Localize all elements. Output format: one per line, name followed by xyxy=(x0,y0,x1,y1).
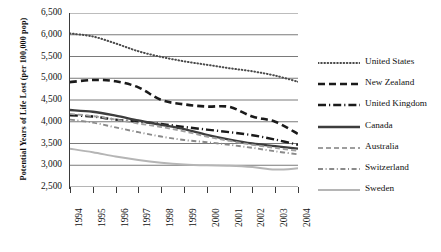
x-tick-mark xyxy=(275,187,276,193)
legend-swatch-icon xyxy=(318,97,360,109)
y-axis-tick-labels: 2,5003,0003,5004,0004,5005,0005,5006,000… xyxy=(22,0,62,252)
chart-legend: United StatesNew ZealandUnited KingdomCa… xyxy=(318,54,441,204)
legend-item-canada[interactable]: Canada xyxy=(318,118,393,132)
y-tick-label: 2,500 xyxy=(26,182,62,191)
legend-item-new-zealand[interactable]: New Zealand xyxy=(318,75,414,89)
legend-item-sweden[interactable]: Sweden xyxy=(318,181,394,195)
x-tick-mark xyxy=(252,187,253,193)
y-tick-label: 5,500 xyxy=(26,52,62,61)
legend-label: Switzerland xyxy=(365,162,409,172)
x-tick-mark xyxy=(184,187,185,193)
legend-label: United States xyxy=(365,56,414,66)
x-tick-label: 2004 xyxy=(302,193,312,227)
legend-item-switzerland[interactable]: Switzerland xyxy=(318,160,409,174)
legend-swatch-icon xyxy=(318,76,360,88)
plot-area xyxy=(70,13,298,187)
x-tick-mark xyxy=(230,187,231,193)
x-tick-mark xyxy=(116,187,117,193)
x-tick-label: 2002 xyxy=(256,193,266,227)
x-tick-mark xyxy=(70,187,71,193)
legend-label: United Kingdom xyxy=(365,98,427,108)
legend-label: New Zealand xyxy=(365,77,414,87)
x-axis-tick-labels: 1994199519961997199819992000200120022003… xyxy=(70,187,298,251)
legend-label: Australia xyxy=(365,141,399,151)
legend-swatch-icon xyxy=(318,161,360,173)
y-tick-label: 3,000 xyxy=(26,160,62,169)
x-tick-mark xyxy=(298,187,299,193)
y-tick-label: 4,000 xyxy=(26,117,62,126)
series-line-united-states xyxy=(70,33,298,81)
chart-container: Potential Years of Life Lost (per 100,00… xyxy=(0,0,441,252)
x-tick-label: 2001 xyxy=(234,193,244,227)
x-tick-label: 1996 xyxy=(120,193,130,227)
y-tick-label: 6,000 xyxy=(26,30,62,39)
x-tick-mark xyxy=(207,187,208,193)
x-tick-mark xyxy=(138,187,139,193)
x-tick-label: 2000 xyxy=(211,193,221,227)
legend-item-australia[interactable]: Australia xyxy=(318,139,399,153)
legend-item-united-states[interactable]: United States xyxy=(318,54,414,68)
x-tick-mark xyxy=(161,187,162,193)
y-tick-label: 5,000 xyxy=(26,73,62,82)
y-tick-label: 6,500 xyxy=(26,8,62,17)
series-line-sweden xyxy=(70,149,298,170)
legend-swatch-icon xyxy=(318,140,360,152)
x-tick-label: 1994 xyxy=(74,193,84,227)
legend-label: Canada xyxy=(365,120,393,130)
legend-label: Sweden xyxy=(365,183,394,193)
x-tick-mark xyxy=(93,187,94,193)
x-tick-label: 1998 xyxy=(165,193,175,227)
y-tick-label: 3,500 xyxy=(26,139,62,148)
x-tick-label: 1999 xyxy=(188,193,198,227)
x-tick-label: 2003 xyxy=(279,193,289,227)
legend-item-united-kingdom[interactable]: United Kingdom xyxy=(318,96,427,110)
legend-swatch-icon xyxy=(318,119,360,131)
series-line-canada xyxy=(70,110,298,149)
y-tick-label: 4,500 xyxy=(26,95,62,104)
legend-swatch-icon xyxy=(318,55,360,67)
legend-swatch-icon xyxy=(318,182,360,194)
series-line-switzerland xyxy=(70,120,298,155)
y-axis-line xyxy=(69,13,70,189)
x-tick-label: 1997 xyxy=(142,193,152,227)
x-tick-label: 1995 xyxy=(97,193,107,227)
series-lines xyxy=(70,13,298,187)
